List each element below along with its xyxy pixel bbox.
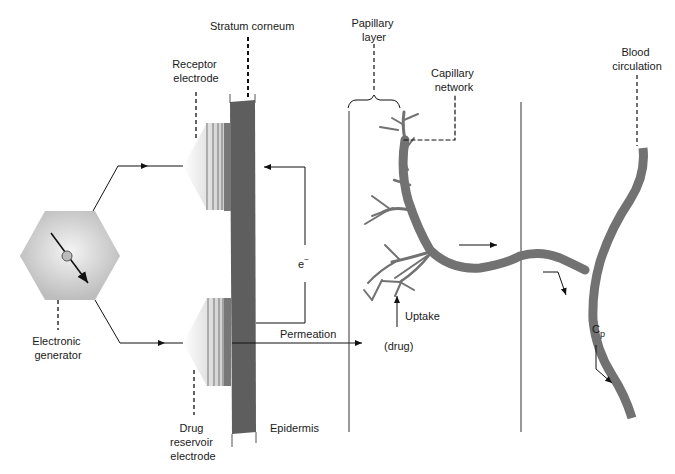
label-drug: (drug): [384, 340, 413, 352]
stratum-corneum: [230, 37, 256, 447]
label-capillary-network: Capillary network: [431, 67, 477, 93]
electronic-generator: [20, 211, 120, 330]
papillary-brace: [348, 44, 400, 108]
label-papillary-layer: Papillary layer: [351, 17, 396, 43]
label-permeation: Permeation: [280, 328, 336, 340]
iontophoresis-diagram: Stratum corneum Receptor electrode Elect…: [0, 0, 675, 474]
label-drug-reservoir-electrode: Drug reservoir electrode: [170, 422, 216, 462]
label-stratum-corneum: Stratum corneum: [210, 20, 294, 32]
label-blood-circulation: Blood circulation: [612, 46, 662, 72]
blood-vessel: [593, 75, 644, 418]
label-epidermis: Epidermis: [270, 422, 319, 434]
drug-reservoir-electrode: [183, 298, 231, 415]
receptor-electrode: [183, 92, 231, 211]
label-uptake: Uptake: [405, 310, 440, 322]
label-electron: e−: [298, 255, 309, 270]
label-electronic-generator: Electronic generator: [32, 335, 83, 361]
label-receptor-electrode: Receptor electrode: [172, 58, 220, 84]
capillary-network: [364, 95, 585, 300]
